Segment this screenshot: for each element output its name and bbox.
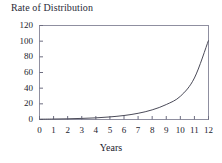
y-tick-label: 120: [9, 20, 33, 30]
plot-area: 020406080100120 0123456789101112: [0, 0, 222, 163]
y-tick-label: 80: [9, 51, 33, 61]
data-series-curve: [40, 40, 209, 119]
y-axis-ticks: [40, 26, 44, 120]
plot-frame: [40, 26, 209, 120]
y-tick-label: 60: [9, 67, 33, 77]
x-tick-label: 12: [201, 125, 217, 135]
y-tick-label: 100: [9, 36, 33, 46]
x-axis-title: Years: [0, 142, 222, 153]
chart-screenshot: Rate of Distribution 020406080100120 012…: [0, 0, 222, 163]
plot-svg: [0, 0, 222, 163]
y-tick-label: 0: [9, 114, 33, 124]
y-tick-label: 20: [9, 98, 33, 108]
y-tick-label: 40: [9, 83, 33, 93]
